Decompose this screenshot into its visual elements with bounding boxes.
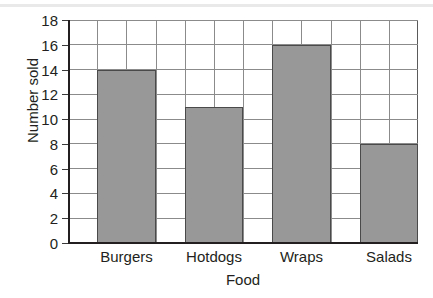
- bar-salads: [360, 144, 418, 243]
- y-axis-tick-label: 14: [22, 62, 58, 77]
- y-axis-tick-label: 10: [22, 112, 58, 127]
- y-axis-tick-label: 6: [22, 161, 58, 176]
- chart-page: Number sold 024681012141618 Food Burgers…: [0, 0, 433, 298]
- gridline-vertical: [331, 20, 332, 243]
- y-axis-tick-mark: [62, 70, 68, 71]
- x-axis-tick-label-burgers: Burgers: [97, 248, 156, 265]
- y-axis-tick-label: 12: [22, 87, 58, 102]
- y-axis-tick-mark: [62, 144, 68, 145]
- y-axis-tick-label: 4: [22, 186, 58, 201]
- y-axis-tick-mark: [62, 193, 68, 194]
- y-axis-tick-labels: 024681012141618: [22, 20, 58, 243]
- y-axis-tick-label: 16: [22, 37, 58, 52]
- y-axis-tick-mark: [62, 169, 68, 170]
- y-axis-tick-label: 18: [22, 13, 58, 28]
- bar-wraps: [272, 45, 331, 243]
- y-axis-tick-mark: [62, 243, 68, 244]
- y-axis-tick-mark: [62, 218, 68, 219]
- y-axis-tick-mark: [62, 94, 68, 95]
- x-axis-title: Food: [68, 271, 418, 288]
- y-axis-tick-label: 8: [22, 136, 58, 151]
- y-axis-line: [68, 20, 70, 244]
- plot-area: [68, 20, 418, 243]
- gridline-vertical: [243, 20, 244, 243]
- x-axis-tick-label-wraps: Wraps: [272, 248, 331, 265]
- gridline-vertical: [156, 20, 157, 243]
- y-axis-tick-label: 0: [22, 236, 58, 251]
- x-axis-tick-label-hotdogs: Hotdogs: [185, 248, 243, 265]
- y-axis-tick-label: 2: [22, 211, 58, 226]
- y-axis-tick-mark: [62, 119, 68, 120]
- top-divider-rule: [0, 4, 433, 7]
- x-axis-tick-label-salads: Salads: [360, 248, 418, 265]
- x-axis-line: [68, 242, 418, 244]
- y-axis-tick-mark: [62, 20, 68, 21]
- bar-burgers: [97, 70, 156, 243]
- y-axis-tick-mark: [62, 45, 68, 46]
- bar-hotdogs: [185, 107, 243, 243]
